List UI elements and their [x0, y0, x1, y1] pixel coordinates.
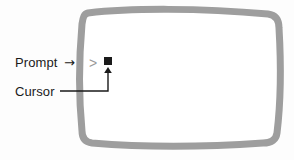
prompt-symbol: >: [89, 55, 97, 71]
diagram-svg: Prompt → > Cursor: [0, 0, 294, 160]
cursor-annotation-label: Cursor: [15, 84, 55, 99]
prompt-annotation-label: Prompt: [15, 55, 58, 70]
prompt-arrow-icon: →: [64, 55, 75, 70]
cursor-square: [104, 57, 112, 65]
diagram-canvas: Prompt → > Cursor: [0, 0, 294, 160]
crt-screen-outline: [80, 9, 281, 146]
